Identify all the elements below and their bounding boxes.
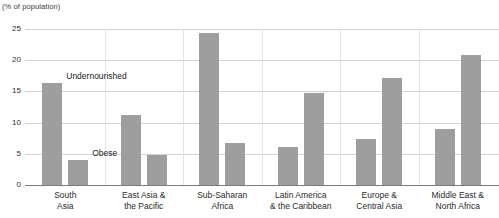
y-axis-tick-20: 20 xyxy=(0,56,21,64)
category-label-line: South xyxy=(26,190,105,201)
group-separator xyxy=(105,29,106,185)
category-label-0: SouthAsia xyxy=(26,190,105,211)
bar-obese-5 xyxy=(461,55,481,185)
bar-obese-3 xyxy=(304,93,324,185)
group-separator xyxy=(340,29,341,185)
category-label-line: Latin America xyxy=(262,190,341,201)
y-axis-tick-15: 15 xyxy=(0,87,21,95)
y-axis-tick-25: 25 xyxy=(0,25,21,33)
category-label-line: Asia xyxy=(26,201,105,212)
category-label-line: the Pacific xyxy=(105,201,184,212)
y-axis-tick-0: 0 xyxy=(0,181,21,189)
category-label-2: Sub-SaharanAfrica xyxy=(183,190,262,211)
bar-undernourished-4 xyxy=(356,139,376,185)
category-label-line: East Asia & xyxy=(105,190,184,201)
bar-undernourished-3 xyxy=(278,147,298,185)
category-label-line: North Africa xyxy=(419,201,498,212)
category-label-5: Middle East &North Africa xyxy=(419,190,498,211)
bar-obese-0 xyxy=(68,160,88,185)
category-label-1: East Asia &the Pacific xyxy=(105,190,184,211)
group-separator xyxy=(262,29,263,185)
category-label-line: Africa xyxy=(183,201,262,212)
bar-undernourished-1 xyxy=(121,115,141,186)
bar-obese-1 xyxy=(147,155,167,185)
bar-obese-4 xyxy=(382,78,402,185)
group-separator xyxy=(183,29,184,185)
group-separator xyxy=(419,29,420,185)
category-label-line: Europe & xyxy=(340,190,419,201)
bar-undernourished-5 xyxy=(435,129,455,185)
bar-obese-2 xyxy=(225,143,245,185)
y-axis-tick-10: 10 xyxy=(0,119,21,127)
category-label-line: Middle East & xyxy=(419,190,498,201)
plot-area: 0510152025 UndernourishedObese SouthAsia… xyxy=(0,0,499,218)
series-label-undernourished: Undernourished xyxy=(66,72,126,81)
category-label-line: Central Asia xyxy=(340,201,419,212)
y-axis-tick-5: 5 xyxy=(0,150,21,158)
axis-baseline xyxy=(25,185,499,186)
category-label-3: Latin America& the Caribbean xyxy=(262,190,341,211)
chart-container: (% of population) 0510152025 Undernouris… xyxy=(0,0,499,218)
category-label-line: & the Caribbean xyxy=(262,201,341,212)
bar-undernourished-2 xyxy=(199,33,219,185)
category-label-4: Europe &Central Asia xyxy=(340,190,419,211)
category-label-line: Sub-Saharan xyxy=(183,190,262,201)
bar-undernourished-0 xyxy=(42,83,62,185)
series-label-obese: Obese xyxy=(92,149,117,158)
